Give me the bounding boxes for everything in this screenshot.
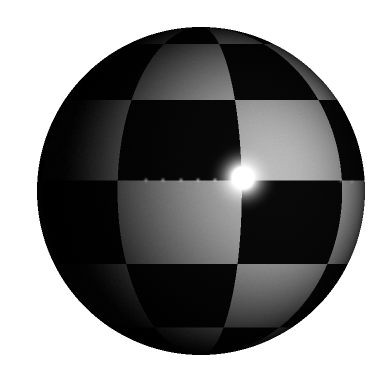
render-viewport bbox=[0, 0, 390, 385]
sphere-render-canvas bbox=[0, 0, 390, 385]
